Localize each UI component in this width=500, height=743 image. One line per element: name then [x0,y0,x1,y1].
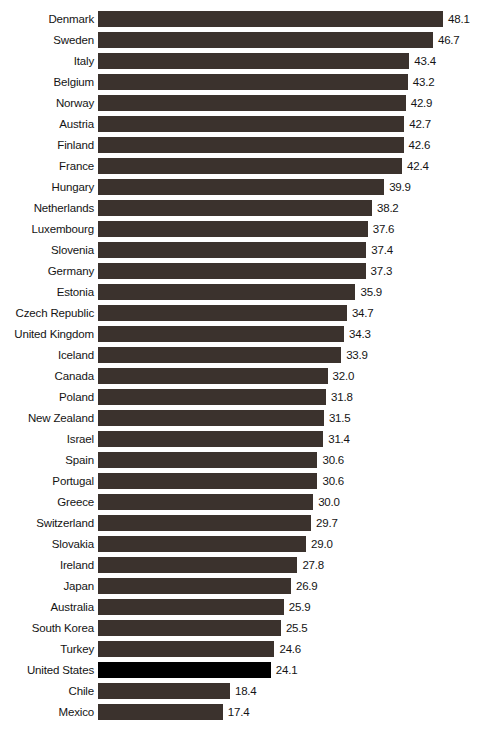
bar-category-label: New Zealand [0,410,98,426]
bar-row: Estonia35.9 [0,284,500,300]
bar-row: Portugal30.6 [0,473,500,489]
bar-row: Iceland33.9 [0,347,500,363]
bar-track: 29.7 [98,515,500,531]
bar-track: 17.4 [98,704,500,720]
bar-track: 29.0 [98,536,500,552]
bar [98,410,324,426]
bar-category-label: Hungary [0,179,98,195]
bar [98,557,297,573]
bar-value-label: 43.2 [408,74,435,90]
bar [98,494,313,510]
bar-category-label: Slovakia [0,536,98,552]
bar-track: 42.4 [98,158,500,174]
bar-track: 30.0 [98,494,500,510]
bar [98,11,443,27]
bar [98,368,328,384]
bar [98,284,355,300]
bar [98,200,372,216]
bar-category-label: Spain [0,452,98,468]
bar-row: Switzerland29.7 [0,515,500,531]
bar-category-label: Mexico [0,704,98,720]
bar-category-label: Chile [0,683,98,699]
bar-value-label: 35.9 [355,284,382,300]
bar-category-label: Canada [0,368,98,384]
bar-track: 31.8 [98,389,500,405]
bar-row: Mexico17.4 [0,704,500,720]
bar-chart-rows: Denmark48.1Sweden46.7Italy43.4Belgium43.… [0,11,500,725]
bar-value-label: 24.1 [271,662,298,678]
bar-category-label: France [0,158,98,174]
bar [98,683,230,699]
bar-row: Poland31.8 [0,389,500,405]
bar-row: United States24.1 [0,662,500,678]
bar [98,452,317,468]
bar [98,431,323,447]
bar-row: Finland42.6 [0,137,500,153]
bar-category-label: United States [0,662,98,678]
bar-row: Ireland27.8 [0,557,500,573]
bar [98,116,404,132]
bar-row: Czech Republic34.7 [0,305,500,321]
bar-value-label: 25.9 [284,599,311,615]
bar-row: Austria42.7 [0,116,500,132]
bar-value-label: 38.2 [372,200,399,216]
bar-category-label: Denmark [0,11,98,27]
bar-track: 42.9 [98,95,500,111]
bar-value-label: 39.9 [384,179,411,195]
bar-row: Italy43.4 [0,53,500,69]
bar-track: 37.6 [98,221,500,237]
bar-category-label: Sweden [0,32,98,48]
bar-value-label: 18.4 [230,683,257,699]
bar-category-label: Greece [0,494,98,510]
bar-track: 42.7 [98,116,500,132]
bar [98,347,341,363]
bar-value-label: 30.0 [313,494,340,510]
bar-track: 26.9 [98,578,500,594]
bar-row: Germany37.3 [0,263,500,279]
bar-track: 24.1 [98,662,500,678]
bar-value-label: 42.7 [404,116,431,132]
bar-value-label: 31.5 [324,410,351,426]
bar [98,515,311,531]
bar-row: Hungary39.9 [0,179,500,195]
bar-row: Slovakia29.0 [0,536,500,552]
bar-category-label: Australia [0,599,98,615]
bar-category-label: Ireland [0,557,98,573]
bar-value-label: 25.5 [281,620,308,636]
bar [98,263,366,279]
bar-category-label: Slovenia [0,242,98,258]
bar-row: South Korea25.5 [0,620,500,636]
bar-track: 35.9 [98,284,500,300]
bar-row: Spain30.6 [0,452,500,468]
bar-row: Denmark48.1 [0,11,500,27]
bar [98,641,274,657]
bar-value-label: 37.3 [366,263,393,279]
bar [98,473,317,489]
bar [98,620,281,636]
bar-track: 24.6 [98,641,500,657]
bar-row: Israel31.4 [0,431,500,447]
bar-category-label: Turkey [0,641,98,657]
bar-row: Belgium43.2 [0,74,500,90]
bar-category-label: Netherlands [0,200,98,216]
bar-track: 43.4 [98,53,500,69]
bar [98,137,404,153]
bar-row: Netherlands38.2 [0,200,500,216]
bar-track: 25.5 [98,620,500,636]
bar-track: 25.9 [98,599,500,615]
bar-category-label: Japan [0,578,98,594]
bar-row: Norway42.9 [0,95,500,111]
bar-value-label: 24.6 [274,641,301,657]
bar-highlighted [98,662,271,678]
bar [98,242,366,258]
bar-track: 37.4 [98,242,500,258]
bar-value-label: 32.0 [328,368,355,384]
bar-track: 33.9 [98,347,500,363]
bar-category-label: Finland [0,137,98,153]
bar-row: Slovenia37.4 [0,242,500,258]
bar-value-label: 30.6 [317,452,344,468]
bar [98,179,384,195]
bar-row: New Zealand31.5 [0,410,500,426]
bar-value-label: 30.6 [317,473,344,489]
bar [98,389,326,405]
